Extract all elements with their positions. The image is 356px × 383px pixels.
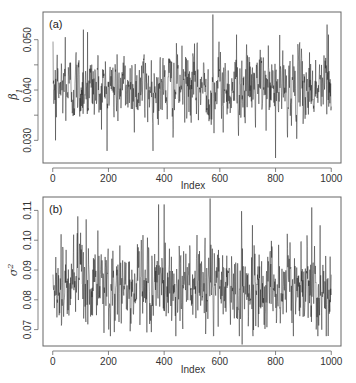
x-tick-label: 800 bbox=[267, 356, 284, 367]
panel-a-beta1-trace: (a) 02004006008001000 0.0300.0400.050 In… bbox=[7, 12, 343, 191]
x-tick-label: 0 bbox=[50, 356, 56, 367]
x-tick-label: 1000 bbox=[320, 173, 343, 184]
panel-label: (a) bbox=[49, 18, 62, 30]
y-tick-label: 0.07 bbox=[22, 319, 33, 339]
x-tick-label: 400 bbox=[156, 173, 173, 184]
y-tick-label: 0.09 bbox=[22, 260, 33, 280]
panel-b-sigma2-trace: (b) 02004006008001000 0.070.080.090.100.… bbox=[6, 197, 343, 375]
x-tick-label: 600 bbox=[212, 356, 229, 367]
y-tick-label: 0.040 bbox=[22, 77, 33, 102]
y-tick-label: 0.10 bbox=[22, 230, 33, 250]
panel-label: (b) bbox=[49, 203, 62, 215]
x-axis-label: Index bbox=[181, 180, 205, 191]
x-axis-label: Index bbox=[181, 364, 205, 375]
x-tick-label: 0 bbox=[50, 173, 56, 184]
y-axis-label: σ2 bbox=[6, 264, 21, 277]
beta1-trace-line bbox=[53, 15, 331, 158]
x-tick-label: 200 bbox=[100, 173, 117, 184]
x-tick-label: 400 bbox=[156, 356, 173, 367]
y-tick-label: 0.11 bbox=[22, 201, 33, 220]
x-tick-label: 600 bbox=[212, 173, 229, 184]
sigma2-trace-line bbox=[53, 198, 331, 344]
trace-plot-figure: (a) 02004006008001000 0.0300.0400.050 In… bbox=[0, 0, 356, 383]
y-axis: 0.070.080.090.100.11 bbox=[22, 201, 38, 340]
y-tick-label: 0.050 bbox=[22, 27, 33, 52]
x-tick-label: 800 bbox=[267, 173, 284, 184]
x-tick-label: 1000 bbox=[320, 356, 343, 367]
y-tick-label: 0.08 bbox=[22, 290, 33, 310]
y-tick-label: 0.030 bbox=[22, 127, 33, 152]
y-axis: 0.0300.0400.050 bbox=[22, 27, 38, 153]
x-tick-label: 200 bbox=[100, 356, 117, 367]
